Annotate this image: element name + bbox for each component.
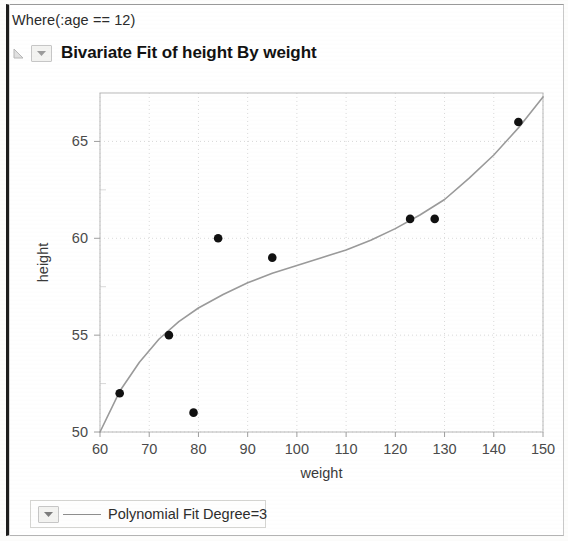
red-triangle-popup-icon[interactable] [31, 45, 52, 62]
where-clause-text: Where(:age == 12) [12, 8, 560, 32]
where-clause-row: Where(:age == 12) [12, 8, 560, 32]
legend-popup-icon[interactable] [38, 506, 59, 523]
legend-label: Polynomial Fit Degree=3 [108, 506, 267, 522]
report-title-row: Bivariate Fit of height By weight [12, 38, 560, 68]
window-inner-rule [9, 4, 10, 536]
page-title: Bivariate Fit of height By weight [61, 43, 317, 63]
triangle-disclosure-icon[interactable] [12, 46, 26, 60]
jmp-report-window: Where(:age == 12) Bivariate Fit of heigh… [0, 0, 568, 541]
legend[interactable]: Polynomial Fit Degree=3 [30, 500, 266, 528]
legend-line-swatch [63, 514, 101, 515]
window-frame [6, 4, 564, 536]
